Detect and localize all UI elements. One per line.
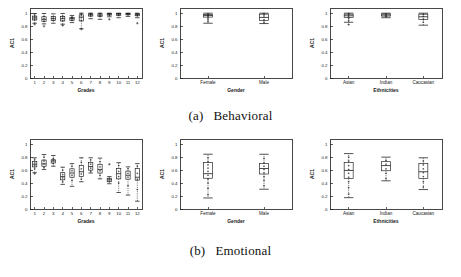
boxplot-behavioral-ethnicities-Caucasian [419, 13, 428, 25]
subcaption-emotional-tag: (b) [190, 243, 206, 258]
figure-boxplot-grid: 00.20.40.60.81AC1123456789101112Grades 0… [0, 0, 461, 277]
y-tick-label: 0.4 [21, 181, 28, 186]
y-tick-label: 1 [325, 142, 328, 147]
x-tick-label: 2 [43, 80, 46, 85]
chart-behavioral-gender: 00.20.40.60.81AC1FemaleMaleGender [150, 0, 300, 104]
chart-behavioral-grades: 00.20.40.60.81AC1123456789101112Grades [0, 0, 150, 104]
x-tick-label: 7 [89, 211, 92, 216]
x-tick-label: Caucasian [412, 211, 434, 216]
y-tick-label: 0 [25, 207, 28, 212]
x-tick-label: 11 [126, 211, 131, 216]
panel-behavioral-ethnicities: 00.20.40.60.81AC1AsianIndianCaucasianEth… [300, 0, 450, 104]
y-axis-title: AC1 [9, 38, 15, 48]
boxplot-emotional-ethnicities-Caucasian [419, 158, 428, 190]
plot-frame [180, 8, 292, 78]
plot-frame [180, 139, 292, 209]
boxplot-behavioral-grades-12 [135, 13, 139, 24]
x-tick-label: 8 [99, 80, 102, 85]
y-tick-label: 0.2 [171, 194, 178, 199]
x-tick-label: 11 [126, 80, 131, 85]
panel-row-behavioral: 00.20.40.60.81AC1123456789101112Grades 0… [0, 0, 461, 104]
boxplot-emotional-grades-5 [70, 164, 74, 187]
panel-behavioral-gender: 00.20.40.60.81AC1FemaleMaleGender [150, 0, 300, 104]
x-tick-label: 2 [43, 211, 46, 216]
y-tick-label: 0.2 [321, 63, 328, 68]
x-tick-label: Male [259, 211, 269, 216]
y-tick-label: 1 [325, 11, 328, 16]
y-tick-label: 0.4 [171, 181, 178, 186]
x-tick-label: 5 [71, 80, 74, 85]
x-axis-title: Ethnicities [373, 218, 399, 224]
x-axis-title: Grades [77, 87, 94, 93]
boxplot-emotional-grades-3 [51, 156, 55, 167]
boxplot-emotional-gender-Male [259, 154, 268, 189]
boxplot-emotional-ethnicities-Indian [381, 157, 390, 181]
x-tick-label: 6 [80, 80, 83, 85]
x-tick-label: Indian [380, 211, 393, 216]
boxplot-emotional-ethnicities-Asian [344, 154, 353, 198]
boxplot-emotional-gender-Female [203, 154, 212, 198]
y-axis-title: AC1 [309, 169, 315, 179]
subcaption-behavioral: (a)Behavioral [0, 108, 461, 124]
y-tick-label: 1 [175, 11, 178, 16]
x-tick-label: Male [259, 80, 269, 85]
boxplot-behavioral-gender-Male [259, 13, 268, 24]
y-tick-label: 0 [325, 207, 328, 212]
boxplot-behavioral-ethnicities-Indian [381, 13, 390, 18]
boxplot-behavioral-grades-8 [98, 13, 102, 20]
y-tick-label: 0.8 [321, 24, 328, 29]
x-tick-label: 8 [99, 211, 102, 216]
x-tick-label: 9 [108, 80, 111, 85]
y-tick-label: 0 [175, 207, 178, 212]
subcaption-emotional: (b)Emotional [0, 243, 461, 259]
x-tick-label: 4 [61, 80, 64, 85]
panel-behavioral-grades: 00.20.40.60.81AC1123456789101112Grades [0, 0, 150, 104]
boxplot-emotional-grades-9 [107, 163, 111, 184]
boxplot-behavioral-grades-4 [60, 14, 64, 27]
boxplot-behavioral-grades-1 [32, 13, 36, 25]
y-axis-title: AC1 [9, 169, 15, 179]
x-axis-title: Gender [227, 218, 245, 224]
y-tick-label: 0.6 [321, 168, 328, 173]
y-tick-label: 0.8 [21, 155, 28, 160]
subcaption-behavioral-tag: (a) [188, 108, 203, 123]
boxplot-behavioral-gender-Female [203, 13, 212, 23]
x-tick-label: 12 [135, 211, 140, 216]
boxplot-emotional-grades-8 [98, 158, 102, 179]
x-tick-label: 6 [80, 211, 83, 216]
x-tick-label: 1 [33, 211, 36, 216]
boxplot-emotional-grades-11 [126, 167, 130, 195]
boxplot-emotional-grades-6 [79, 158, 83, 182]
boxplot-behavioral-grades-10 [116, 13, 120, 18]
x-tick-label: 5 [71, 211, 74, 216]
boxplot-emotional-grades-4 [60, 167, 64, 184]
plot-frame [30, 139, 142, 209]
x-tick-label: Indian [380, 80, 393, 85]
y-tick-label: 0.6 [171, 37, 178, 42]
boxplot-behavioral-ethnicities-Asian [344, 13, 353, 26]
y-tick-label: 0.2 [21, 194, 28, 199]
y-tick-label: 0.6 [21, 168, 28, 173]
y-axis-title: AC1 [309, 38, 315, 48]
y-tick-label: 0 [175, 76, 178, 81]
boxplot-behavioral-grades-6 [79, 13, 83, 31]
x-tick-label: 10 [116, 211, 121, 216]
y-tick-label: 1 [25, 11, 28, 16]
y-tick-label: 0.8 [171, 24, 178, 29]
y-axis-title: AC1 [159, 169, 165, 179]
subcaption-behavioral-text: Behavioral [213, 108, 272, 123]
box-iqr [98, 164, 102, 173]
y-tick-label: 0.2 [21, 63, 28, 68]
y-tick-label: 0.6 [321, 37, 328, 42]
subcaption-emotional-text: Emotional [215, 243, 271, 258]
y-tick-label: 0 [325, 76, 328, 81]
x-tick-label: 1 [33, 80, 36, 85]
boxplot-behavioral-grades-9 [107, 13, 111, 21]
y-tick-label: 0.8 [21, 24, 28, 29]
panel-emotional-gender: 00.20.40.60.81AC1FemaleMaleGender [150, 131, 300, 235]
x-tick-label: Asian [343, 80, 355, 85]
y-axis-title: AC1 [159, 38, 165, 48]
x-tick-label: 4 [61, 211, 64, 216]
x-tick-label: Caucasian [412, 80, 434, 85]
plot-frame [330, 8, 442, 78]
